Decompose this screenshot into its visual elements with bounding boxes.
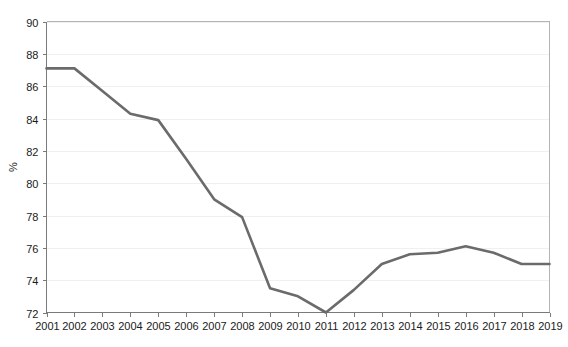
x-tick-label: 2009 (258, 320, 282, 332)
y-tick-label: 76 (26, 243, 38, 255)
x-tick-label: 2018 (510, 320, 534, 332)
y-axis-title: % (7, 162, 19, 172)
grid-lines (47, 23, 550, 281)
x-tick-label: 2015 (426, 320, 450, 332)
line-chart: 7274767880828486889020012002200320042005… (0, 0, 568, 347)
y-tick-label: 86 (26, 81, 38, 93)
y-tick-label: 84 (26, 114, 38, 126)
x-tick-label: 2008 (230, 320, 254, 332)
x-tick-label: 2013 (370, 320, 394, 332)
y-tick-label: 74 (26, 275, 38, 287)
chart-canvas: 7274767880828486889020012002200320042005… (0, 0, 568, 347)
y-tick-label: 82 (26, 146, 38, 158)
x-tick-label: 2017 (482, 320, 506, 332)
plot-frame (47, 22, 550, 313)
x-tick-label: 2007 (202, 320, 226, 332)
y-axis: 72747678808284868890 (26, 17, 46, 320)
y-tick-label: 88 (26, 49, 38, 61)
x-tick-label: 2010 (286, 320, 310, 332)
x-tick-label: 2003 (90, 320, 114, 332)
x-tick-label: 2016 (454, 320, 478, 332)
data-series-line (47, 68, 550, 312)
x-tick-label: 2012 (342, 320, 366, 332)
y-tick-label: 90 (26, 17, 38, 29)
x-tick-label: 2005 (146, 320, 170, 332)
x-tick-label: 2002 (62, 320, 86, 332)
x-tick-label: 2014 (398, 320, 422, 332)
x-tick-label: 2019 (538, 320, 562, 332)
y-tick-label: 72 (26, 308, 38, 320)
x-tick-label: 2011 (315, 320, 339, 332)
y-tick-label: 78 (26, 211, 38, 223)
x-tick-label: 2006 (174, 320, 198, 332)
x-tick-label: 2004 (118, 320, 142, 332)
y-tick-label: 80 (26, 178, 38, 190)
x-tick-label: 2001 (35, 320, 59, 332)
x-axis: 2001200220032004200520062007200820092010… (35, 313, 562, 332)
